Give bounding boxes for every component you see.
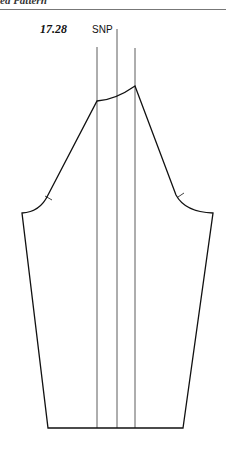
right-notch-mark [178, 193, 184, 197]
sleeve-outline [22, 86, 213, 428]
sleeve-pattern-diagram [0, 0, 226, 457]
